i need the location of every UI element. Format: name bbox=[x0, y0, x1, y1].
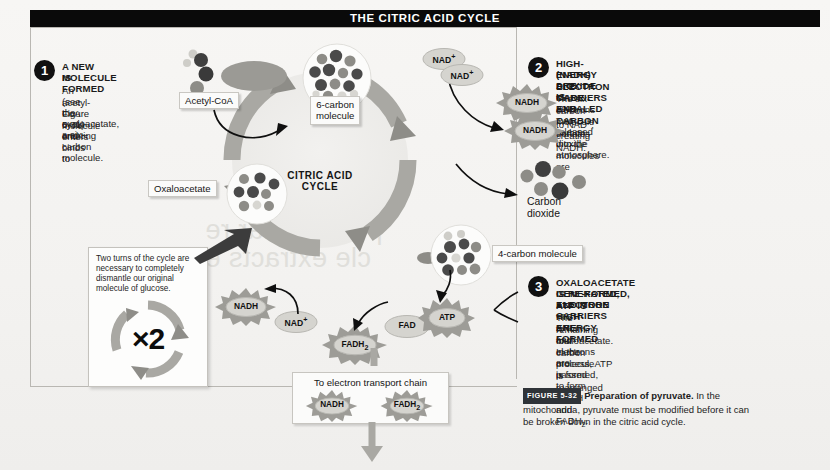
caption-bold-text: Preparation of pyruvate. bbox=[584, 390, 693, 401]
nad-plus-badge-3-text: NAD bbox=[285, 318, 304, 328]
two-turns-note-box: Two turns of the cycle are necessary to … bbox=[88, 247, 208, 387]
nad-plus-badge-1-sup: + bbox=[451, 52, 455, 61]
note-line1: Two turns of the cycle are bbox=[96, 254, 202, 264]
step-1-number: 1 bbox=[34, 60, 55, 81]
etc-nadh-text: NADH bbox=[301, 400, 363, 409]
etc-outflow-arrow bbox=[358, 422, 386, 466]
carbon-dioxide-label-line1: Carbon bbox=[527, 196, 561, 208]
etc-fadh2-badge: FADH2 bbox=[375, 390, 439, 422]
carbon-dioxide-molecules bbox=[518, 158, 598, 200]
cycle-center-label: CITRIC ACID CYCLE bbox=[200, 170, 440, 192]
atp-badge-text: ATP bbox=[418, 312, 476, 322]
caption-rest-line3: be broken down in the citric acid cycle. bbox=[523, 416, 818, 429]
etc-inflow-arrow bbox=[362, 348, 386, 374]
multiplier-circle-arrows: ×2 bbox=[99, 298, 197, 380]
nadh-badge-1-text: NADH bbox=[496, 97, 558, 107]
electron-transport-chain-box: To electron transport chain NADH FADH2 bbox=[292, 372, 449, 424]
cycle-center-line1: CITRIC ACID bbox=[200, 170, 440, 181]
carbon-dioxide-label-line2: dioxide bbox=[527, 208, 561, 220]
six-carbon-label-line2: molecule bbox=[316, 110, 354, 121]
fadh2-badge-1-text: FADH bbox=[342, 339, 365, 349]
carbon-dioxide-label: Carbon dioxide bbox=[527, 196, 561, 221]
nadh-badge-2-text: NADH bbox=[504, 125, 566, 135]
atp-formation-arrow bbox=[430, 270, 466, 304]
step-3-number: 3 bbox=[528, 276, 549, 297]
six-carbon-molecule-label: 6-carbon molecule bbox=[310, 96, 360, 125]
step-3-pointer-arrow bbox=[492, 288, 522, 328]
etc-nadh-badge: NADH bbox=[301, 390, 363, 422]
cycle-center-line2: CYCLE bbox=[200, 181, 440, 192]
nad-plus-badge-2-text: NAD bbox=[451, 71, 470, 81]
nad-to-nadh-arrow-bottom bbox=[264, 284, 308, 318]
note-line3: dismantle our original bbox=[96, 274, 202, 284]
note-text: Two turns of the cycle are necessary to … bbox=[96, 254, 202, 294]
figure-canvas: p of cellular re cle extracts e THE CITR… bbox=[0, 0, 830, 470]
figure-title-bar: THE CITRIC ACID CYCLE bbox=[30, 10, 820, 27]
figure-caption: FIGURE 5-32Preparation of pyruvate. In t… bbox=[523, 388, 818, 429]
caption-rest-line1: In the bbox=[694, 390, 720, 401]
etc-fadh2-text: FADH bbox=[394, 400, 416, 409]
note-to-cycle-arrow bbox=[194, 228, 256, 264]
acetyl-coa-entry-arrow bbox=[210, 104, 300, 150]
nad-plus-badge-2: NAD+ bbox=[440, 64, 484, 86]
nadh-badge-2: NADH bbox=[504, 112, 566, 150]
page-title: THE CITRIC ACID CYCLE bbox=[30, 12, 820, 24]
nad-plus-badge-2-sup: + bbox=[469, 68, 473, 77]
six-carbon-label-line1: 6-carbon bbox=[316, 99, 354, 110]
etc-fadh2-sub: 2 bbox=[416, 403, 420, 412]
note-line2: necessary to completely bbox=[96, 264, 202, 274]
note-line4: molecule of glucose. bbox=[96, 284, 202, 294]
figure-number-tag: FIGURE 5-32 bbox=[523, 388, 581, 404]
fad-to-fadh2-arrow bbox=[344, 298, 392, 332]
multiplier-label: ×2 bbox=[99, 322, 197, 356]
four-carbon-molecule-label: 4-carbon molecule bbox=[492, 245, 583, 262]
etc-title: To electron transport chain bbox=[293, 377, 448, 388]
caption-rest-line2: mitochondria, pyruvate must be modified … bbox=[523, 404, 818, 417]
atp-badge: ATP bbox=[418, 298, 476, 338]
step-1-body-line5: a six-carbon molecule. bbox=[62, 129, 103, 164]
